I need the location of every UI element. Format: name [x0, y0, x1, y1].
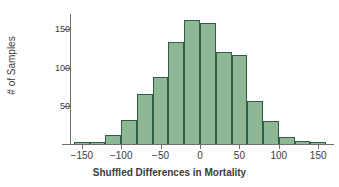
histogram-bar — [184, 20, 200, 144]
histogram-bar — [216, 52, 232, 144]
x-axis-tick-label: 100 — [259, 150, 299, 162]
histogram-bar — [200, 23, 216, 144]
y-axis-tick-label: 100 — [42, 64, 70, 73]
histogram-figure: 50100150 −150−100−50050100150 # of Sampl… — [0, 0, 339, 187]
histogram-bar — [295, 141, 311, 144]
x-axis-tick — [161, 144, 162, 149]
histogram-bar — [153, 77, 169, 144]
y-axis-tick-label: 150 — [42, 25, 70, 34]
histogram-bar — [263, 121, 279, 144]
x-axis-tick-label: −150 — [62, 150, 102, 162]
x-axis-tick-label: 150 — [298, 150, 338, 162]
x-axis-line — [62, 144, 334, 145]
x-axis-tick — [318, 144, 319, 149]
histogram-bar — [168, 42, 184, 144]
x-axis-tick-label: −50 — [141, 150, 181, 162]
x-axis-tick-label: 0 — [180, 150, 220, 162]
x-axis-title: Shuffled Differences in Mortality — [0, 167, 339, 178]
y-axis-tick-label: 50 — [42, 102, 70, 111]
histogram-bar — [121, 120, 137, 144]
x-axis-tick — [279, 144, 280, 149]
histogram-bar — [279, 137, 295, 144]
x-axis-tick — [82, 144, 83, 149]
x-axis-tick-label: 50 — [219, 150, 259, 162]
x-axis-tick — [121, 144, 122, 149]
x-axis-tick-label: −100 — [101, 150, 141, 162]
y-axis-line — [70, 14, 71, 145]
histogram-bar — [90, 142, 106, 144]
x-axis-tick — [239, 144, 240, 149]
histogram-bar — [105, 135, 121, 144]
histogram-bar — [137, 94, 153, 144]
y-axis-title: # of Samples — [6, 11, 17, 121]
x-axis-tick — [200, 144, 201, 149]
histogram-bar — [247, 101, 263, 144]
histogram-bar — [232, 55, 248, 144]
